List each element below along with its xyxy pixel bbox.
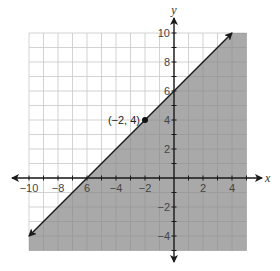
- y-tick-label: −2: [157, 201, 170, 213]
- x-axis-label: x: [264, 171, 271, 185]
- point-label: (−2, 4): [108, 114, 140, 126]
- x-tick-label: −4: [110, 182, 123, 194]
- x-tick-label: −2: [139, 182, 152, 194]
- x-tick-label: 4: [229, 182, 235, 194]
- coordinate-plane: −10−86−4−224−4−2246810 (−2, 4) x y: [0, 0, 280, 271]
- x-tick-label: −10: [20, 182, 39, 194]
- labeled-point: [142, 117, 148, 123]
- y-tick-label: 2: [164, 143, 170, 155]
- x-tick-label: −8: [52, 182, 65, 194]
- y-tick-label: 10: [158, 27, 170, 39]
- shaded-region: [29, 33, 247, 251]
- x-tick-label: 6: [84, 182, 90, 194]
- y-axis-label: y: [170, 3, 177, 17]
- y-tick-label: 6: [164, 85, 170, 97]
- y-tick-label: −4: [157, 230, 170, 242]
- y-tick-label: 8: [164, 56, 170, 68]
- x-tick-label: 2: [200, 182, 206, 194]
- y-tick-label: 4: [164, 114, 170, 126]
